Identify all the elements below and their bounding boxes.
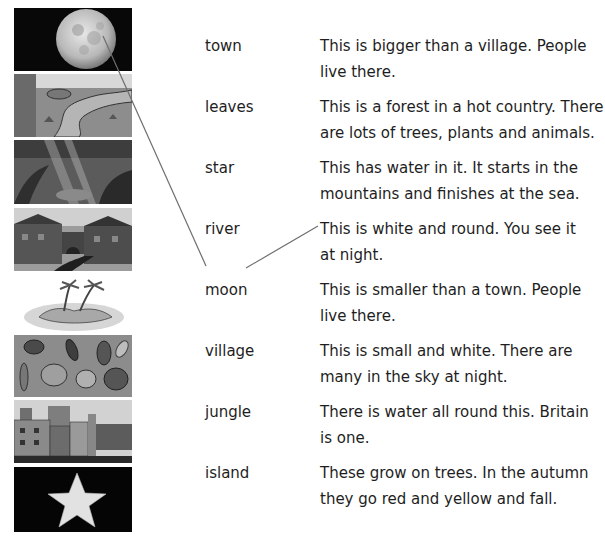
word-star: star bbox=[205, 158, 234, 178]
word-town: town bbox=[205, 36, 242, 56]
definition-line: This is white and round. You see it bbox=[320, 216, 605, 242]
definition-2: This is a forest in a hot country. There… bbox=[320, 94, 605, 146]
definition-line: is one. bbox=[320, 425, 605, 451]
river-picture-icon bbox=[14, 74, 132, 137]
definition-5: This is smaller than a town. People live… bbox=[320, 277, 605, 329]
definition-3: This has water in it. It starts in the m… bbox=[320, 155, 605, 207]
leaves-picture[interactable] bbox=[14, 335, 132, 397]
definition-line: This has water in it. It starts in the bbox=[320, 155, 605, 181]
definition-line: This is smaller than a town. People bbox=[320, 277, 605, 303]
definition-line: they go red and yellow and fall. bbox=[320, 486, 605, 512]
definition-4: This is white and round. You see it at n… bbox=[320, 216, 605, 268]
definition-line: These grow on trees. In the autumn bbox=[320, 460, 605, 486]
star-picture-icon bbox=[14, 467, 132, 532]
definition-line: at night. bbox=[320, 242, 605, 268]
village-picture-icon bbox=[14, 208, 132, 271]
star-picture[interactable] bbox=[14, 467, 132, 532]
definition-line: This is a forest in a hot country. There bbox=[320, 94, 605, 120]
definition-line: This is bigger than a village. People bbox=[320, 33, 605, 59]
word-river: river bbox=[205, 219, 240, 239]
definition-8: These grow on trees. In the autumn they … bbox=[320, 460, 605, 512]
definition-line: are lots of trees, plants and animals. bbox=[320, 120, 605, 146]
definition-line: live there. bbox=[320, 303, 605, 329]
word-island: island bbox=[205, 463, 249, 483]
definition-7: There is water all round this. Britain i… bbox=[320, 399, 605, 451]
definition-line: There is water all round this. Britain bbox=[320, 399, 605, 425]
word-leaves: leaves bbox=[205, 97, 254, 117]
island-picture-icon bbox=[14, 277, 132, 333]
village-picture[interactable] bbox=[14, 208, 132, 271]
leaves-picture-icon bbox=[14, 335, 132, 397]
town-picture[interactable] bbox=[14, 400, 132, 463]
word-jungle: jungle bbox=[205, 402, 251, 422]
river-picture[interactable] bbox=[14, 74, 132, 137]
moon-picture[interactable] bbox=[14, 8, 132, 71]
definition-line: This is small and white. There are bbox=[320, 338, 605, 364]
definition-1: This is bigger than a village. People li… bbox=[320, 33, 605, 85]
jungle-picture[interactable] bbox=[14, 140, 132, 204]
definition-6: This is small and white. There are many … bbox=[320, 338, 605, 390]
word-village: village bbox=[205, 341, 254, 361]
definition-line: live there. bbox=[320, 59, 605, 85]
definition-line: many in the sky at night. bbox=[320, 364, 605, 390]
town-picture-icon bbox=[14, 400, 132, 463]
line-moon-word-to-definition bbox=[246, 226, 318, 268]
definition-line: mountains and finishes at the sea. bbox=[320, 181, 605, 207]
island-picture[interactable] bbox=[14, 277, 132, 333]
moon-picture-icon bbox=[14, 8, 132, 71]
word-moon: moon bbox=[205, 280, 247, 300]
jungle-picture-icon bbox=[14, 140, 132, 204]
